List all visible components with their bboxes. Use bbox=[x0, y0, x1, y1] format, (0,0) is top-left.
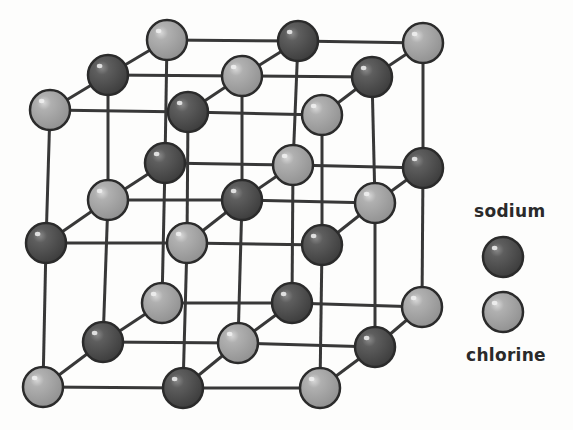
chlorine-atom bbox=[273, 145, 313, 185]
chlorine-atom bbox=[218, 323, 258, 363]
sodium-atom bbox=[88, 55, 128, 95]
chlorine-atom bbox=[30, 90, 70, 130]
sodium-atom bbox=[403, 148, 443, 188]
sodium-atom bbox=[272, 283, 312, 323]
sodium-atom bbox=[355, 327, 395, 367]
bond-line bbox=[43, 243, 46, 387]
sodium-atom bbox=[222, 180, 262, 220]
sodium-atom bbox=[352, 57, 392, 97]
bond-line bbox=[103, 200, 108, 342]
sodium-atom bbox=[302, 225, 342, 265]
chlorine-atom bbox=[402, 287, 442, 327]
bond-line bbox=[238, 200, 242, 343]
legend-chlorine-ball-icon bbox=[483, 292, 523, 332]
legend-label-sodium: sodium bbox=[474, 201, 545, 221]
chlorine-atom bbox=[355, 183, 395, 223]
sodium-atom bbox=[83, 322, 123, 362]
chlorine-atom bbox=[222, 56, 262, 96]
bond-line bbox=[183, 243, 187, 388]
chlorine-atom bbox=[403, 23, 443, 63]
chlorine-atom bbox=[142, 283, 182, 323]
chlorine-atom bbox=[302, 95, 342, 135]
bond-line bbox=[320, 245, 322, 388]
sodium-atom bbox=[163, 368, 203, 408]
legend-sodium-ball-icon bbox=[483, 237, 523, 277]
sodium-atom bbox=[26, 223, 66, 263]
legend bbox=[483, 237, 523, 332]
chlorine-atom bbox=[23, 367, 63, 407]
chlorine-atom bbox=[300, 368, 340, 408]
chlorine-atom bbox=[167, 223, 207, 263]
sodium-atom bbox=[278, 21, 318, 61]
sodium-atom bbox=[145, 143, 185, 183]
sodium-atom bbox=[168, 92, 208, 132]
chlorine-atom bbox=[147, 20, 187, 60]
chlorine-atom bbox=[88, 180, 128, 220]
legend-label-chlorine: chlorine bbox=[466, 345, 546, 365]
